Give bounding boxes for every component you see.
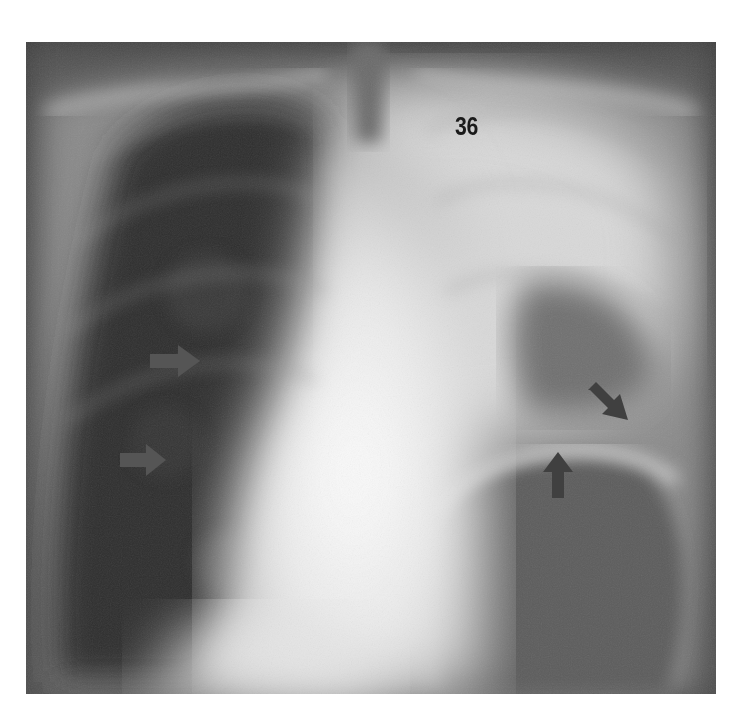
xray-rendering	[26, 42, 716, 694]
figure-number-label: 36	[455, 112, 478, 141]
chest-xray-image	[26, 42, 716, 694]
arrow-up-icon	[543, 452, 573, 498]
arrow-down-right-icon	[588, 382, 630, 422]
arrow-right-upper-icon	[150, 345, 200, 377]
arrow-right-lower-icon	[120, 444, 166, 476]
film-grain	[26, 42, 716, 694]
